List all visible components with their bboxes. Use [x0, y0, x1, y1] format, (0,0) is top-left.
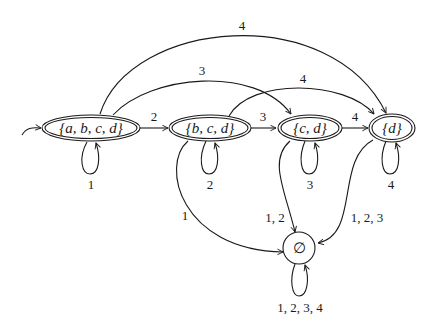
label-t4: 2 — [207, 177, 214, 192]
state-s4: ∅ — [283, 232, 315, 264]
state-label-s2: {c, d} — [293, 120, 327, 136]
label-t6: 4 — [300, 71, 307, 86]
label-t11: 4 — [388, 177, 395, 192]
label-t0: 1 — [88, 177, 95, 192]
state-s3: {d} — [369, 114, 415, 142]
label-t10: 1, 2 — [265, 210, 285, 225]
label-t9: 4 — [352, 109, 359, 124]
label-t12: 1, 2, 3 — [351, 210, 384, 225]
transition-s2-s2 — [301, 141, 318, 174]
label-t7: 1 — [182, 208, 189, 223]
state-label-s4: ∅ — [293, 240, 306, 256]
state-label-s3: {d} — [382, 120, 402, 136]
transition-s3-s4 — [318, 140, 373, 243]
state-label-s0: {a, b, c, d} — [59, 120, 123, 136]
state-label-s1: {b, c, d} — [186, 120, 235, 136]
transition-s0-s0 — [82, 142, 99, 174]
start-arrow — [22, 128, 41, 135]
label-t3: 4 — [239, 18, 246, 33]
label-t5: 3 — [260, 109, 267, 124]
transition-s3-s3 — [382, 141, 399, 174]
label-t2: 3 — [199, 63, 206, 78]
state-s1: {b, c, d} — [169, 115, 251, 141]
label-t1: 2 — [151, 109, 158, 124]
state-s0: {a, b, c, d} — [42, 115, 140, 141]
transition-s1-s1 — [201, 141, 217, 174]
label-t8: 3 — [307, 177, 314, 192]
state-s2: {c, d} — [278, 115, 342, 141]
transition-s0-s3 — [100, 36, 386, 114]
transition-s1-s4 — [177, 141, 283, 252]
label-t13: 1, 2, 3, 4 — [277, 300, 323, 315]
automaton-diagram: 1 2 3 4 2 3 4 1 3 4 1, 2 4 1, 2, 3 1, 2,… — [0, 0, 431, 330]
transition-s4-s4 — [292, 264, 308, 296]
